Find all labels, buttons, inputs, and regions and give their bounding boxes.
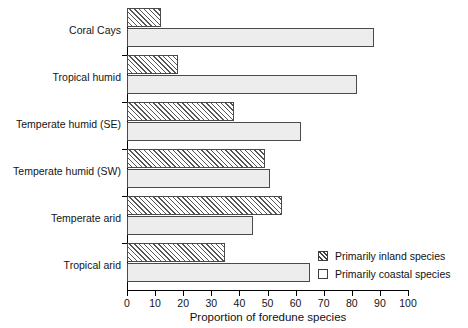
x-axis-tick-label: 40 (234, 297, 246, 309)
x-axis-tick (324, 290, 325, 296)
x-axis-tick (408, 290, 409, 296)
bar-coastal (127, 75, 357, 94)
x-axis-tick (183, 290, 184, 296)
bar-inland (127, 196, 282, 215)
x-axis-tick-label: 70 (318, 297, 330, 309)
bar-coastal (127, 216, 253, 235)
x-axis-tick (239, 290, 240, 296)
legend-label-coastal: Primarily coastal species (335, 268, 451, 280)
bar-group (0, 196, 468, 243)
legend-item-coastal: Primarily coastal species (318, 266, 451, 282)
x-axis-tick-label: 50 (262, 297, 274, 309)
bar-group (0, 8, 468, 55)
x-axis-tick (211, 290, 212, 296)
x-axis-tick (127, 290, 128, 296)
hatched-square-icon (318, 251, 328, 261)
x-axis-tick-label: 90 (374, 297, 386, 309)
x-axis-tick-label: 20 (177, 297, 189, 309)
x-axis-tick-label: 10 (149, 297, 161, 309)
bar-inland (127, 55, 178, 74)
x-axis-tick (352, 290, 353, 296)
x-axis-tick (155, 290, 156, 296)
x-axis-tick-label: 80 (346, 297, 358, 309)
empty-square-icon (318, 269, 328, 279)
legend-label-inland: Primarily inland species (335, 250, 445, 262)
bar-group (0, 55, 468, 102)
bar-inland (127, 243, 225, 262)
x-axis-tick-label: 100 (399, 297, 417, 309)
bar-chart: Coral CaysTropical humidTemperate humid … (0, 0, 468, 328)
bar-inland (127, 8, 161, 27)
bar-coastal (127, 28, 374, 47)
x-axis-title: Proportion of foredune species (127, 311, 409, 323)
bar-coastal (127, 169, 270, 188)
chart-legend: Primarily inland species Primarily coast… (318, 248, 451, 284)
x-axis-tick-label: 0 (124, 297, 130, 309)
x-axis-tick (268, 290, 269, 296)
bar-inland (127, 149, 265, 168)
x-axis-tick-label: 30 (205, 297, 217, 309)
x-axis-tick (380, 290, 381, 296)
bar-group (0, 102, 468, 149)
x-axis-tick (296, 290, 297, 296)
bar-group (0, 149, 468, 196)
bar-inland (127, 102, 234, 121)
legend-item-inland: Primarily inland species (318, 248, 451, 264)
bar-coastal (127, 263, 310, 282)
bar-coastal (127, 122, 301, 141)
x-axis-tick-label: 60 (290, 297, 302, 309)
